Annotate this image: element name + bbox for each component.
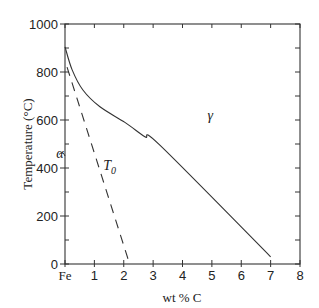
phase-diagram-chart: Fe1234567802004006008001000 γT0α wt % C … [0,0,319,308]
y-tick-label: 1000 [29,17,58,32]
annotations: γT0α [56,108,213,176]
tick-labels: Fe1234567802004006008001000 [29,17,304,283]
annotation-label: γ [207,108,213,123]
plot-frame [65,24,300,264]
x-tick-label: 5 [208,268,215,283]
plot-border [65,24,300,264]
y-tick-label: 800 [36,65,58,80]
annotation-label: T0 [103,158,116,176]
x-tick-label: 8 [296,268,303,283]
y-tick-label: 600 [36,113,58,128]
x-tick-label: 4 [179,268,186,283]
t0-line [67,67,130,264]
axis-ticks [60,24,300,267]
y-tick-label: 0 [51,257,58,272]
phase-boundary-curve [65,47,271,257]
y-axis-label: Temperature (°C) [20,98,35,189]
y-tick-label: 400 [36,161,58,176]
x-tick-label: 7 [267,268,274,283]
x-tick-label: Fe [59,268,72,283]
x-tick-label: 3 [150,268,157,283]
x-axis-label: wt % C [163,290,202,305]
x-tick-label: 6 [238,268,245,283]
x-tick-label: 1 [91,268,98,283]
y-tick-label: 200 [36,209,58,224]
x-tick-label: 2 [120,268,127,283]
data-series [65,47,271,264]
